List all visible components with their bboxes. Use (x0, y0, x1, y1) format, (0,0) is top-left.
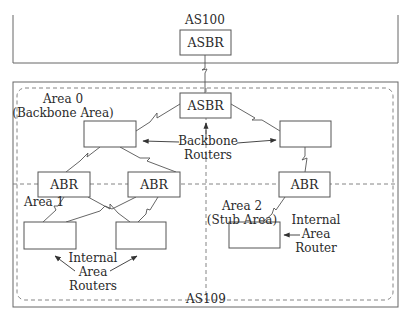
as100-asbr-router[interactable]: ASBR (180, 30, 231, 55)
link-asbr-backbone-right (231, 104, 280, 131)
as100-label: AS100 (184, 13, 225, 27)
area2-sublabel: (Stub Area) (207, 213, 277, 227)
internal-area-router-line2: Area (301, 227, 331, 241)
abr-router-left[interactable]: ABR (38, 172, 90, 197)
abr-router-right[interactable]: ABR (279, 172, 330, 197)
as109-label: AS109 (185, 292, 226, 306)
link-abr-middle-internal-middle (138, 197, 158, 222)
arrow-to-backbone-left (143, 141, 179, 142)
abr-left-label: ABR (49, 177, 78, 192)
area1-label: Area 1 (23, 195, 64, 209)
asbr-label: ASBR (186, 98, 224, 113)
link-asbr-backbone-left (136, 104, 180, 131)
backbone-router-left[interactable] (84, 121, 136, 147)
link-backbone-abr-right (302, 147, 307, 172)
internal-router-middle[interactable] (116, 222, 166, 249)
abr-right-label: ABR (290, 177, 319, 192)
internal-area-routers-line3: Routers (69, 279, 117, 293)
asbr-router[interactable]: ASBR (180, 93, 231, 118)
backbone-routers-annotation-line1: Backbone (178, 134, 238, 148)
internal-router-left[interactable] (24, 222, 76, 249)
as100-asbr-label: ASBR (186, 35, 224, 50)
backbone-routers-annotation-line2: Routers (184, 148, 232, 162)
internal-area-router-line1: Internal (292, 213, 341, 227)
area2-label: Area 2 (221, 199, 262, 213)
link-abr-left-internal-middle (88, 197, 130, 222)
link-backbone-abr-middle (120, 147, 176, 172)
backbone-router-right[interactable] (280, 121, 331, 147)
ospf-topology-diagram: AS100 ASBR ASBR (0, 0, 409, 319)
internal-area-router-line3: Router (295, 241, 337, 255)
link-asbr-asbr (202, 55, 207, 93)
abr-router-middle[interactable]: ABR (128, 172, 180, 197)
area0-sublabel: (Backbone Area) (12, 106, 114, 120)
internal-area-routers-line1: Internal (69, 251, 118, 265)
arrow-to-backbone-right (237, 140, 276, 143)
abr-middle-label: ABR (139, 177, 168, 192)
internal-area-routers-line2: Area (78, 265, 108, 279)
area0-label: Area 0 (42, 92, 83, 106)
link-backbone-abr-left (66, 147, 100, 172)
